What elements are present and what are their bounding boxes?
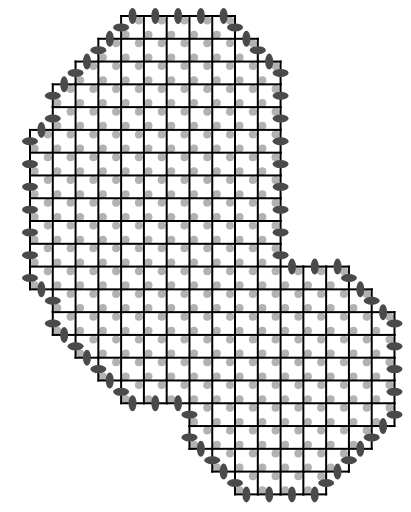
cell-dot <box>349 441 357 449</box>
cell-dot <box>258 463 266 471</box>
cell-dot <box>203 267 211 275</box>
cell-dot <box>144 236 152 244</box>
boundary-marker <box>227 479 243 487</box>
cell-dot <box>249 290 257 298</box>
cell-dot <box>180 176 188 184</box>
cell-dot <box>144 167 152 175</box>
cell-dot <box>144 327 152 335</box>
cell-dot <box>272 381 280 389</box>
cell-dot <box>281 350 289 358</box>
cell-dot <box>53 258 61 266</box>
boundary-marker <box>379 418 387 434</box>
cell-dot <box>112 85 120 93</box>
boundary-marker <box>364 433 380 441</box>
cell-dot <box>236 372 244 380</box>
cell-dot <box>167 53 175 61</box>
cell-dot <box>236 122 244 130</box>
cell-dot <box>213 190 221 198</box>
cell-dot <box>236 395 244 403</box>
cell-dot <box>76 213 84 221</box>
cell-dot <box>167 304 175 312</box>
boundary-marker <box>288 259 296 275</box>
cell-dot <box>258 258 266 266</box>
cell-dot <box>122 76 130 84</box>
cell-dot <box>304 441 312 449</box>
cell-dot <box>89 313 97 321</box>
boundary-marker <box>60 76 68 92</box>
cell-dot <box>317 335 325 343</box>
boundary-marker <box>273 206 289 214</box>
cell-dot <box>294 381 302 389</box>
cell-dot <box>158 130 166 138</box>
cell-dot <box>203 290 211 298</box>
cell-dot <box>272 472 280 480</box>
cell-dot <box>349 304 357 312</box>
cell-dot <box>135 62 143 70</box>
cell-dot <box>203 62 211 70</box>
cell-dot <box>304 486 312 494</box>
cell-dot <box>304 418 312 426</box>
boundary-marker <box>273 183 289 191</box>
boundary-marker <box>181 433 197 441</box>
cell-dot <box>122 236 130 244</box>
boundary-marker <box>90 365 106 373</box>
cell-dot <box>213 76 221 84</box>
cell-dot <box>180 39 188 47</box>
cell-dot <box>327 418 335 426</box>
cell-dot <box>258 486 266 494</box>
cell-dot <box>317 427 325 435</box>
cell-dot <box>372 327 380 335</box>
cell-dot <box>249 313 257 321</box>
boundary-marker <box>68 342 84 350</box>
cell-dot <box>158 176 166 184</box>
cell-dot <box>144 372 152 380</box>
cell-dot <box>249 267 257 275</box>
cell-dot <box>144 145 152 153</box>
cell-dot <box>272 222 280 230</box>
cell-dot <box>89 222 97 230</box>
cell-dot <box>67 222 75 230</box>
cell-dot <box>327 304 335 312</box>
cell-dot <box>213 327 221 335</box>
cell-dot <box>122 350 130 358</box>
cell-dot <box>258 304 266 312</box>
cell-dot <box>167 327 175 335</box>
cell-dot <box>327 395 335 403</box>
cell-dot <box>272 335 280 343</box>
cell-dot <box>249 404 257 412</box>
cell-dot <box>349 395 357 403</box>
cell-dot <box>53 190 61 198</box>
grid-lines-layer <box>30 16 394 494</box>
cell-dot <box>190 167 198 175</box>
cell-dot <box>89 244 97 252</box>
cell-dot <box>31 213 39 221</box>
cell-dot <box>281 372 289 380</box>
cell-dot <box>112 62 120 70</box>
boundary-marker <box>22 274 38 282</box>
cell-dot <box>89 85 97 93</box>
cell-dot <box>190 418 198 426</box>
cell-dot <box>135 130 143 138</box>
cell-dot <box>304 463 312 471</box>
cell-dot <box>31 145 39 153</box>
boundary-marker <box>90 46 106 54</box>
cell-dot <box>281 463 289 471</box>
cell-dot <box>190 190 198 198</box>
cell-dot <box>180 222 188 230</box>
cell-dot <box>317 449 325 457</box>
boundary-marker <box>197 8 205 24</box>
cell-dot <box>236 99 244 107</box>
cell-dot <box>226 381 234 389</box>
cell-dot <box>385 381 393 389</box>
cell-dot <box>135 39 143 47</box>
boundary-marker <box>37 122 45 138</box>
cell-dot <box>258 441 266 449</box>
cell-dot <box>236 236 244 244</box>
cell-dot <box>213 463 221 471</box>
boundary-marker <box>227 23 243 31</box>
boundary-marker <box>68 69 84 77</box>
cell-dot <box>135 290 143 298</box>
cell-dot <box>258 167 266 175</box>
cell-dot <box>112 199 120 207</box>
cell-dot <box>76 167 84 175</box>
